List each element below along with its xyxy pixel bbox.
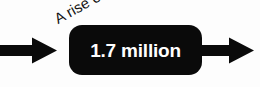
infographic-canvas: 1.7 million A rise of [0,0,260,87]
value-callout-pill: 1.7 million [69,25,202,75]
arrow-right-icon [0,36,58,65]
caption-a-rise-of: A rise of [52,0,107,26]
arrow-right-icon [198,36,255,65]
value-label: 1.7 million [90,41,181,60]
